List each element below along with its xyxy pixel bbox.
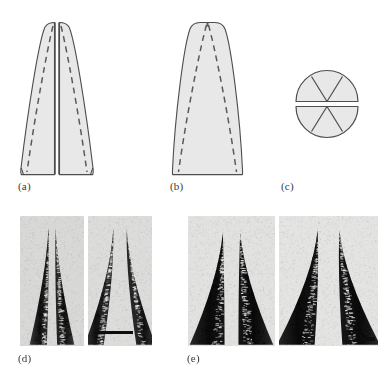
panel-label-d: (d) — [18, 352, 31, 364]
panel-label-c: (c) — [281, 180, 294, 192]
scale-bar-e2 — [360, 337, 375, 341]
micrograph-d2 — [88, 216, 152, 346]
micrograph-row — [0, 0, 390, 383]
scale-bar-d2 — [97, 331, 133, 334]
micrograph-e1 — [188, 216, 275, 346]
panel-label-b: (b) — [170, 180, 183, 192]
micrograph-e2 — [279, 216, 378, 346]
figure-plate: (a) (b) (c) (d) (e) — [0, 0, 390, 383]
panel-label-a: (a) — [18, 180, 31, 192]
micrograph-d1 — [20, 216, 84, 346]
panel-label-e: (e) — [187, 352, 200, 364]
